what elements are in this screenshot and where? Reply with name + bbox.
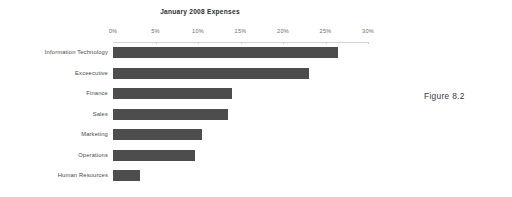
bar-row: Operations xyxy=(113,148,368,168)
x-tick-mark xyxy=(368,42,369,44)
bar xyxy=(113,129,202,140)
category-label: Sales xyxy=(93,111,108,117)
category-label: Information Technology xyxy=(45,49,108,55)
category-label: Exceecutive xyxy=(75,70,108,76)
figure-page: January 2008 Expenses 0%5%10%15%20%25%30… xyxy=(0,0,512,197)
bar-row: Marketing xyxy=(113,127,368,147)
bar xyxy=(113,170,140,181)
bar xyxy=(113,88,232,99)
x-axis-tick-labels: 0%5%10%15%20%25%30% xyxy=(113,28,368,39)
chart-title: January 2008 Expenses xyxy=(0,8,400,15)
x-tick-mark xyxy=(156,42,157,44)
x-tick-mark xyxy=(326,42,327,44)
bar xyxy=(113,109,228,120)
bar-row: Finance xyxy=(113,86,368,106)
plot-area: Information TechnologyExceecutiveFinance… xyxy=(113,45,368,190)
bar-row: Sales xyxy=(113,107,368,127)
x-tick-label: 10% xyxy=(192,28,204,34)
bar xyxy=(113,150,195,161)
x-tick-mark xyxy=(283,42,284,44)
x-tick-label: 0% xyxy=(109,28,118,34)
category-label: Finance xyxy=(86,90,108,96)
category-label: Marketing xyxy=(81,131,108,137)
x-tick-label: 15% xyxy=(235,28,247,34)
bar xyxy=(113,68,309,79)
bar xyxy=(113,47,338,58)
x-tick-label: 30% xyxy=(362,28,374,34)
bar-row: Human Resources xyxy=(113,168,368,188)
bar-chart-figure: January 2008 Expenses 0%5%10%15%20%25%30… xyxy=(0,0,410,197)
x-tick-label: 20% xyxy=(277,28,289,34)
x-tick-mark xyxy=(198,42,199,44)
bar-row: Exceecutive xyxy=(113,66,368,86)
bar-row: Information Technology xyxy=(113,45,368,65)
category-label: Human Resources xyxy=(58,172,108,178)
x-tick-label: 5% xyxy=(151,28,160,34)
x-tick-mark xyxy=(241,42,242,44)
x-tick-label: 25% xyxy=(320,28,332,34)
category-label: Operations xyxy=(78,152,108,158)
figure-caption: Figure 8.2 xyxy=(424,91,465,101)
